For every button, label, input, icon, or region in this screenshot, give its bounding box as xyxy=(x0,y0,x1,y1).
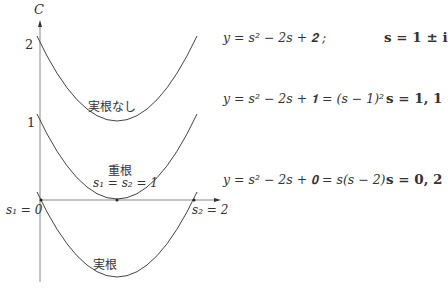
equation-c1: y = s² − 2s + 𝟏 = (s − 1)² xyxy=(223,91,384,107)
roots-c1: s = 1, 1 xyxy=(386,90,443,106)
tick-1: 1 xyxy=(27,115,35,130)
root-s2-point xyxy=(193,199,196,202)
double-root-point xyxy=(116,199,119,202)
c-axis-label: C xyxy=(34,2,44,17)
equation-c0: y = s² − 2s + 𝟎 = s(s − 2) xyxy=(223,172,386,188)
label-s1: s₁ = 0 xyxy=(6,203,42,217)
roots-c0: s = 0, 2 xyxy=(386,171,443,187)
label-no-real-roots: 実根なし xyxy=(88,97,136,114)
equation-c2: y = s² − 2s + 𝟐 ; xyxy=(223,30,326,46)
label-double-root-eq: s₁ = s₂ = 1 xyxy=(93,176,158,190)
tick-2: 2 xyxy=(25,37,33,52)
curve-c0 xyxy=(37,192,197,277)
roots-c2: s = 1 ± i xyxy=(384,29,448,45)
s-axis-arrow-icon xyxy=(214,198,221,202)
label-s2: s₂ = 2 xyxy=(192,203,228,217)
label-real-roots: 実根 xyxy=(93,255,117,272)
root-s1-point xyxy=(40,199,43,202)
c-axis-arrow-icon xyxy=(38,20,42,27)
